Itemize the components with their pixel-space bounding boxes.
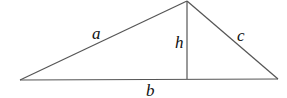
label-side-c: c <box>237 26 245 45</box>
base-line <box>20 79 278 80</box>
label-side-a: a <box>92 24 101 43</box>
label-altitude-h: h <box>175 33 184 52</box>
side-c-line <box>187 1 278 79</box>
side-a-line <box>20 1 187 80</box>
label-base-b: b <box>146 81 155 98</box>
triangle-diagram: a h c b <box>0 0 287 98</box>
